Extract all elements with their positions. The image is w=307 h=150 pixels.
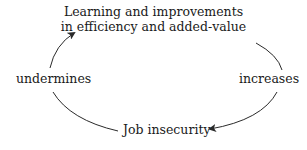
arrow-top-to-increases — [256, 43, 282, 70]
arrow-undermines-to-top — [50, 33, 74, 68]
node-learning-improvements: Learning and improvements in efficiency … — [0, 4, 307, 34]
arrow-increases-to-job-insecurity — [210, 92, 277, 129]
node-top-line2: in efficiency and added-value — [0, 19, 307, 34]
arrow-job-insecurity-to-undermines — [53, 92, 118, 131]
edge-label-increases: increases — [239, 71, 299, 86]
node-top-line1: Learning and improvements — [0, 4, 307, 19]
node-job-insecurity: Job insecurity — [123, 122, 210, 137]
edge-label-undermines: undermines — [16, 71, 91, 86]
